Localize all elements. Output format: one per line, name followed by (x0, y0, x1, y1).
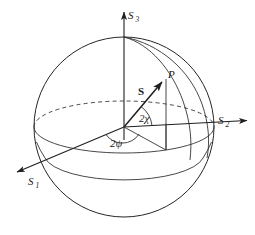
label-axis-s1-subscript: 1 (36, 181, 40, 190)
label-axis-s3-subscript: 3 (135, 15, 140, 24)
label-point-p: P (167, 68, 175, 80)
lower-latitude-arc (45, 158, 203, 180)
label-axis-s1: S 1 (28, 175, 39, 190)
lower-band-left-join (37, 142, 46, 158)
label-axis-s2-base: S (218, 114, 224, 126)
label-angle-2psi: 2ψ (110, 137, 123, 149)
label-axis-s3-base: S (128, 9, 134, 21)
axis-s1 (17, 127, 124, 172)
meridian-great-circle-front (124, 37, 191, 160)
label-axis-s3: S 3 (128, 9, 140, 24)
label-angle-2chi: 2χ (139, 112, 151, 124)
label-stokes-vector: S (138, 85, 144, 97)
poincare-sphere-figure: S 3 S 2 S 1 P S 2χ 2ψ (0, 0, 255, 235)
label-axis-s1-base: S (28, 175, 34, 187)
label-axis-s2-subscript: 2 (226, 120, 230, 129)
poincare-sphere-diagram: S 3 S 2 S 1 P S 2χ 2ψ (0, 0, 255, 235)
